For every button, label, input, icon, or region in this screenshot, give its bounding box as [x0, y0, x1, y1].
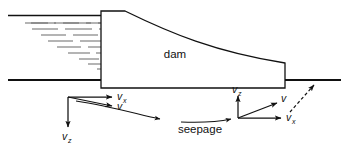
v-arrow-upstream	[68, 97, 112, 106]
vz-sublabel-upstream: z	[67, 137, 72, 144]
vx-sublabel-downstream: x	[291, 118, 296, 125]
v-arrow-downstream	[238, 103, 277, 118]
upstream-vector-group: v x v v z	[62, 90, 127, 144]
seepage-flowline-group: seepage	[76, 101, 231, 135]
vx-sublabel-upstream: x	[122, 97, 127, 104]
seepage-curve-right	[181, 119, 231, 122]
downstream-vector-group: v z v v x	[232, 83, 296, 125]
seepage-label: seepage	[178, 123, 222, 135]
dam-body	[101, 11, 285, 88]
dam-label: dam	[164, 48, 186, 60]
diagram-canvas: dam v x v v z seepage v z v v	[0, 0, 349, 153]
vz-sublabel-downstream: z	[237, 90, 242, 97]
dam-seepage-diagram: dam v x v v z seepage v z v v	[0, 0, 349, 153]
dashed-exit-arrow	[290, 85, 314, 112]
v-label-downstream: v	[281, 92, 287, 104]
